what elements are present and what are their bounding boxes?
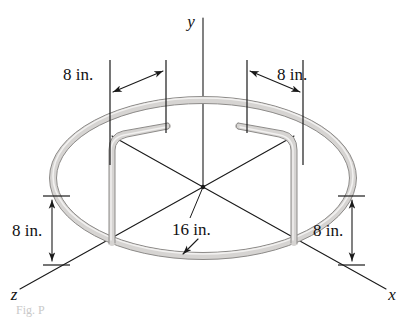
dimension-label-top-left: 8 in. — [63, 65, 93, 84]
left-handle — [109, 123, 170, 244]
ring-handle-diagram: 8 in. 8 in. 8 in. 8 in. 16 in. — [0, 0, 406, 317]
axis-back-diagonal-left — [112, 136, 203, 187]
dimension-label-diameter: 16 in. — [172, 220, 211, 239]
right-handle-edge-inner — [238, 129, 291, 243]
right-handle-highlight — [240, 127, 293, 240]
dimension-label-bottom-left: 8 in. — [12, 221, 42, 240]
right-handle — [236, 123, 297, 244]
dimension-diameter: 16 in. — [172, 187, 211, 254]
right-handle-body — [238, 126, 294, 243]
left-handle-body — [112, 126, 168, 243]
axis-label-x: x — [387, 285, 396, 304]
axis-label-y: y — [185, 12, 195, 31]
left-handle-edge-inner — [115, 129, 168, 243]
diameter-leader-upper — [190, 187, 203, 218]
axis-label-z: z — [10, 285, 18, 304]
dimension-label-bottom-right: 8 in. — [313, 221, 343, 240]
dimension-label-top-right: 8 in. — [277, 65, 307, 84]
axis-back-diagonal-right — [203, 136, 294, 187]
figure-container: 8 in. 8 in. 8 in. 8 in. 16 in. — [0, 0, 406, 317]
axis-group — [20, 18, 386, 289]
figure-caption: Fig. P — [16, 303, 45, 317]
dim-arrow-top-left — [113, 71, 163, 92]
